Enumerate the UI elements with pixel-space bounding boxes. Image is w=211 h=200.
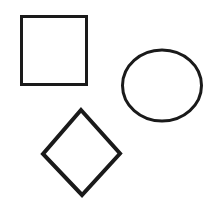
drawing-canvas	[0, 0, 211, 200]
shapes-illustration	[0, 0, 211, 200]
